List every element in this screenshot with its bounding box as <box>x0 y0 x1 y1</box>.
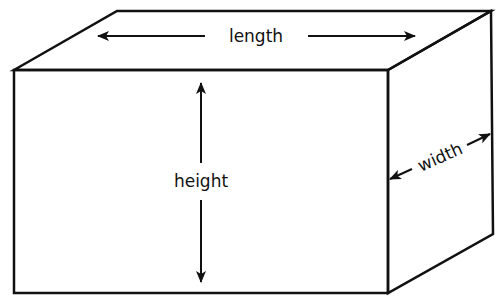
width-arrow-right <box>467 134 490 145</box>
box-diagram: length height width <box>0 0 497 304</box>
length-label: length <box>229 26 283 46</box>
width-arrow-left <box>390 169 412 179</box>
box-outline <box>14 11 493 293</box>
width-label: width <box>415 138 466 175</box>
height-label: height <box>174 171 229 191</box>
